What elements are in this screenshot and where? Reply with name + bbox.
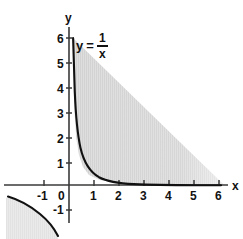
equation-lhs: y [76,38,83,53]
equation-annotation: y = 1 x [76,32,108,60]
y-tick-label-3: 3 [57,108,64,120]
y-axis-label: y [65,12,72,24]
x-tick-label-1: 1 [90,190,97,202]
x-tick-label-5: 5 [190,190,197,202]
graph-canvas [0,0,243,239]
y-tick-label-4: 4 [57,83,64,95]
y-tick-label-6: 6 [57,33,64,45]
x-tick-label-4: 4 [165,190,172,202]
x-tick-label-3: 3 [140,190,147,202]
x-axis-label: x [232,180,239,192]
x-tick-label-6: 6 [215,190,222,202]
shaded-region-main [73,38,224,185]
equation-fraction: 1 x [97,32,108,60]
shaded-region-third-quadrant [6,197,58,239]
equation-equals: = [86,38,94,53]
figure-container: x y -1 0 1 2 3 4 5 6 6 5 4 3 2 1 -1 y = … [0,0,243,239]
x-tick-label-2: 2 [115,190,122,202]
y-tick-label-5: 5 [57,58,64,70]
x-tick-label-0: 0 [58,190,65,202]
equation-numerator: 1 [97,32,108,44]
y-tick-label--1: -1 [53,204,64,216]
y-tick-label-1: 1 [57,158,64,170]
y-tick-label-2: 2 [57,133,64,145]
x-tick-label--1: -1 [37,190,48,202]
equation-denominator: x [97,48,108,60]
